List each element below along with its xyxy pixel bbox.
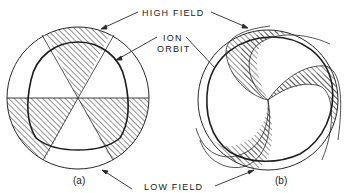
spiral-hill bbox=[268, 66, 346, 168]
label-high-field: HIGH FIELD bbox=[142, 8, 205, 18]
arrowhead bbox=[116, 56, 122, 60]
leader-high-field-a bbox=[103, 12, 138, 28]
figure-b bbox=[190, 26, 346, 174]
label-orbit: ORBIT bbox=[157, 44, 191, 54]
hill-sector-lower-right bbox=[78, 98, 158, 190]
hill-sector-lower-left bbox=[0, 98, 78, 190]
arrowhead bbox=[248, 170, 254, 174]
figure-a bbox=[0, 16, 158, 190]
leader-ion-orbit-a bbox=[118, 37, 157, 59]
caption-a: (a) bbox=[73, 175, 85, 186]
leader-low-field-a bbox=[104, 171, 132, 189]
diagram-canvas bbox=[0, 0, 346, 193]
label-ion: ION bbox=[163, 33, 183, 43]
arrowhead bbox=[101, 25, 107, 29]
spiral-edge bbox=[268, 84, 332, 160]
label-low-field: LOW FIELD bbox=[144, 182, 203, 192]
leader-low-field-b bbox=[215, 171, 252, 186]
caption-b: (b) bbox=[275, 175, 287, 186]
arrowhead bbox=[242, 24, 248, 28]
leader-high-field-b bbox=[211, 12, 246, 27]
